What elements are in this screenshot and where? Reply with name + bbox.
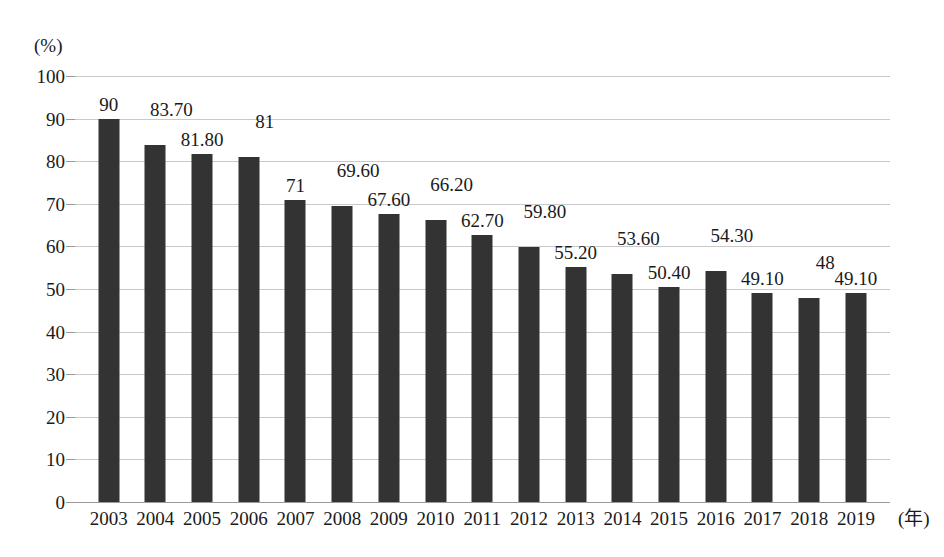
bar-value-label: 55.20 xyxy=(554,243,597,262)
y-axis-tick-label: 70 xyxy=(46,194,65,213)
x-axis-tick-label: 2008 xyxy=(323,509,361,528)
y-axis-tick-mark xyxy=(66,76,75,77)
bar-value-label: 81.80 xyxy=(181,130,224,149)
x-axis-tick-label: 2019 xyxy=(837,509,875,528)
x-axis-tick-label: 2005 xyxy=(183,509,221,528)
bar-value-label: 49.10 xyxy=(835,269,878,288)
y-axis-tick-mark xyxy=(66,246,75,247)
bar[interactable] xyxy=(752,293,773,502)
y-axis-tick-label: 80 xyxy=(46,152,65,171)
y-axis-tick-label: 30 xyxy=(46,365,65,384)
gridline xyxy=(75,76,890,77)
y-axis-tick-label: 60 xyxy=(46,237,65,256)
y-axis-tick-mark xyxy=(66,119,75,120)
bar[interactable] xyxy=(192,154,213,502)
x-axis-tick-label: 2007 xyxy=(276,509,314,528)
y-axis-tick-label: 50 xyxy=(46,280,65,299)
bar-value-label: 48 xyxy=(816,253,835,272)
bar-value-label: 53.60 xyxy=(617,229,660,248)
bar-value-label: 69.60 xyxy=(337,161,380,180)
gridline xyxy=(75,119,890,120)
bar[interactable] xyxy=(565,267,586,502)
bar[interactable] xyxy=(378,214,399,502)
bar[interactable] xyxy=(238,157,259,502)
bar-value-label: 59.80 xyxy=(524,202,567,221)
x-axis-tick-label: 2014 xyxy=(603,509,641,528)
x-axis-tick-label: 2015 xyxy=(650,509,688,528)
x-axis-tick-label: 2004 xyxy=(136,509,174,528)
bar[interactable] xyxy=(518,247,539,502)
bar[interactable] xyxy=(145,145,166,502)
y-axis-tick-label: 0 xyxy=(56,493,66,512)
bar[interactable] xyxy=(799,298,820,502)
gridline xyxy=(75,502,890,503)
x-axis-tick-label: 2003 xyxy=(90,509,128,528)
y-axis-tick-label: 10 xyxy=(46,450,65,469)
bar-value-label: 49.10 xyxy=(741,269,784,288)
x-axis-tick-label: 2016 xyxy=(697,509,735,528)
y-axis-tick-label: 90 xyxy=(46,109,65,128)
bar[interactable] xyxy=(332,206,353,502)
bar[interactable] xyxy=(98,119,119,502)
bar-chart: (%) 10090807060504030201009083.7081.8081… xyxy=(0,0,944,557)
y-axis-tick-mark xyxy=(66,502,75,503)
bar-value-label: 54.30 xyxy=(710,226,753,245)
bar[interactable] xyxy=(472,235,493,502)
bar-value-label: 62.70 xyxy=(461,211,504,230)
y-axis-tick-label: 40 xyxy=(46,322,65,341)
bar[interactable] xyxy=(845,293,866,502)
bar-value-label: 90 xyxy=(99,95,118,114)
y-axis-tick-mark xyxy=(66,332,75,333)
y-axis-tick-mark xyxy=(66,204,75,205)
bar-value-label: 66.20 xyxy=(430,175,473,194)
y-axis-tick-mark xyxy=(66,161,75,162)
x-axis-tick-label: 2010 xyxy=(417,509,455,528)
y-axis-tick-label: 20 xyxy=(46,407,65,426)
y-axis-tick-mark xyxy=(66,374,75,375)
x-axis-tick-label: 2006 xyxy=(230,509,268,528)
bar[interactable] xyxy=(659,287,680,502)
x-axis-title: (年) xyxy=(898,509,930,528)
bar[interactable] xyxy=(425,220,446,502)
y-axis-tick-mark xyxy=(66,417,75,418)
bar[interactable] xyxy=(285,200,306,502)
x-axis-tick-label: 2013 xyxy=(557,509,595,528)
y-axis-unit-label: (%) xyxy=(34,36,62,55)
bar-value-label: 83.70 xyxy=(150,100,193,119)
bar-value-label: 71 xyxy=(286,176,305,195)
bar-value-label: 67.60 xyxy=(367,190,410,209)
bar-value-label: 50.40 xyxy=(648,263,691,282)
x-axis-tick-label: 2017 xyxy=(743,509,781,528)
bar[interactable] xyxy=(612,274,633,502)
bar-value-label: 81 xyxy=(255,112,274,131)
plot-area: 10090807060504030201009083.7081.80817169… xyxy=(75,76,890,502)
x-axis-tick-label: 2011 xyxy=(464,509,501,528)
x-axis-tick-label: 2018 xyxy=(790,509,828,528)
x-axis-tick-label: 2009 xyxy=(370,509,408,528)
x-axis-tick-label: 2012 xyxy=(510,509,548,528)
y-axis-tick-mark xyxy=(66,289,75,290)
y-axis-tick-mark xyxy=(66,459,75,460)
y-axis-tick-label: 100 xyxy=(37,67,66,86)
bar[interactable] xyxy=(705,271,726,502)
